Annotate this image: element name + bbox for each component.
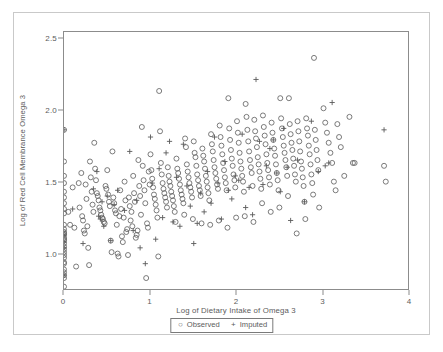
data-point-observed [64,284,67,289]
data-point-observed [191,139,196,144]
data-point-observed [143,201,148,206]
data-point-observed [228,147,233,152]
data-point-observed [254,145,259,150]
data-point-imputed [191,241,196,246]
data-point-imputed [80,241,85,246]
data-point-observed [312,127,317,132]
data-point-imputed [177,224,182,229]
data-point-observed [236,140,241,145]
data-point-observed [258,176,263,181]
data-point-observed [255,155,260,160]
data-point-observed [185,169,190,174]
data-point-observed [292,163,297,168]
data-point-imputed [202,209,207,214]
data-point-observed [131,173,136,178]
legend-entry-observed: ○Observed [176,320,220,330]
data-point-observed [280,135,285,140]
data-point-observed [166,173,171,178]
data-point-observed [298,149,303,154]
data-point-observed [270,130,275,135]
data-point-observed [84,196,89,201]
data-point-observed [305,133,310,138]
data-point-imputed [212,134,217,139]
data-point-observed [177,182,182,187]
data-point-observed [194,163,199,168]
data-point-observed [114,222,119,227]
data-point-observed [242,214,247,219]
y-axis-tick-label: 1.0 [45,250,57,259]
data-point-observed [211,158,216,163]
data-point-observed [70,185,75,190]
data-point-observed [64,181,67,186]
x-axis-tick-mark [149,290,150,295]
data-point-observed [285,173,290,178]
data-point-observed [308,162,313,167]
data-point-imputed [138,245,143,250]
data-point-observed [91,209,96,214]
data-point-observed [253,129,258,134]
data-point-observed [337,135,342,140]
data-point-observed [222,168,227,173]
data-point-observed [74,264,79,269]
data-point-observed [205,185,210,190]
data-point-observed [64,173,67,178]
data-point-observed [202,159,207,164]
data-point-observed [64,195,67,200]
data-point-observed [190,217,195,222]
data-point-observed [148,152,153,157]
scatter-plot-figure: Log of Red Cell Membrance Omega 3 2.52.0… [0,0,443,352]
data-point-observed [296,129,301,134]
data-point-observed [233,185,238,190]
data-point-observed [240,173,245,178]
data-point-observed [158,160,163,165]
data-point-observed [219,143,224,148]
data-point-observed [158,129,163,134]
data-point-observed [283,158,288,163]
data-point-observed [292,172,297,177]
y-axis-tick-label: 2.5 [45,34,57,43]
x-axis-tick-label: 0 [61,297,66,306]
data-point-imputed [278,189,283,194]
data-point-observed [260,201,265,206]
y-axis-tick-group: 2.52.01.51.0 [38,24,63,299]
data-point-observed [154,208,159,213]
data-point-observed [104,186,109,191]
data-point-observed [226,96,231,101]
data-point-observed [76,181,81,186]
data-point-observed [326,140,331,145]
data-point-imputed [91,186,96,191]
data-point-observed [171,204,176,209]
data-point-observed [127,204,132,209]
data-point-observed [269,120,274,125]
data-point-observed [125,227,130,232]
y-axis-title: Log of Red Cell Membrance Omega 3 [16,31,30,290]
data-point-observed [102,221,107,226]
plot-area [63,31,409,290]
data-point-imputed [115,188,120,193]
data-point-observed [223,181,228,186]
data-point-observed [265,160,270,165]
data-point-observed [141,178,146,183]
x-axis-tick-mark [63,290,64,295]
data-point-observed [113,211,118,216]
data-point-observed [195,172,200,177]
data-point-observed [382,163,387,168]
data-point-observed [86,245,91,250]
data-point-observed [286,194,291,199]
data-point-observed [83,182,88,187]
data-point-observed [210,149,215,154]
data-point-observed [201,153,206,158]
data-point-observed [251,219,256,224]
data-point-observed [293,179,298,184]
data-point-observed [260,113,265,118]
data-point-observed [248,165,253,170]
data-point-observed [290,147,295,152]
data-point-observed [142,188,147,193]
data-point-observed [257,169,262,174]
data-point-observed [246,139,251,144]
data-point-observed [200,146,205,151]
data-point-observed [245,127,250,132]
data-point-observed [313,137,318,142]
data-point-observed [87,159,92,164]
data-point-observed [317,205,322,210]
